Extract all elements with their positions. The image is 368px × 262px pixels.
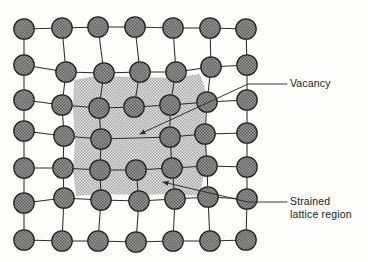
lattice-atom (165, 189, 185, 209)
lattice-atom (53, 158, 73, 178)
lattice-atom (237, 157, 257, 177)
lattice-atom (90, 160, 110, 180)
lattice-atom (166, 62, 186, 82)
lattice-atom (54, 188, 74, 208)
lattice-atom (197, 92, 217, 112)
lattice-atom (160, 127, 180, 147)
lattice-atom (52, 95, 72, 115)
lattice-atom (14, 193, 34, 213)
lattice-atom (88, 231, 108, 251)
lattice-atom (160, 95, 180, 115)
lattice-atom (198, 187, 218, 207)
lattice-atom (129, 191, 149, 211)
lattice-atom (88, 17, 108, 37)
lattice-atom (14, 90, 34, 110)
vacancy-label: Vacancy (290, 77, 331, 89)
lattice-atom (52, 18, 72, 38)
lattice-atom (130, 62, 150, 82)
lattice-atom (162, 158, 182, 178)
lattice-atom (14, 55, 34, 75)
lattice-atom (89, 98, 109, 118)
strained-region-label-line2: lattice region (290, 208, 352, 220)
lattice-atom (91, 190, 111, 210)
lattice-svg-canvas: Vacancy Strained lattice region (0, 0, 368, 262)
lattice-atom (200, 231, 220, 251)
lattice-atom (163, 18, 183, 38)
lattice-atom (126, 160, 146, 180)
lattice-atom (14, 230, 34, 250)
lattice-atom (163, 231, 183, 251)
lattice-atom (236, 19, 256, 39)
lattice-atom (126, 232, 146, 252)
lattice-atom (56, 62, 76, 82)
lattice-atom (54, 126, 74, 146)
lattice-atom (124, 97, 144, 117)
lattice-atom (237, 55, 257, 75)
strained-region-label-line1: Strained (290, 195, 330, 207)
lattice-atom (125, 17, 145, 37)
lattice-atom (14, 158, 34, 178)
lattice-atom (201, 57, 221, 77)
lattice-atom (14, 121, 34, 141)
lattice-atom (195, 124, 215, 144)
lattice-atom (14, 19, 34, 39)
lattice-atom (197, 156, 217, 176)
lattice-diagram-figure: Vacancy Strained lattice region (0, 0, 368, 262)
lattice-atom (237, 123, 257, 143)
lattice-atom (237, 189, 257, 209)
lattice-atom (91, 129, 111, 149)
lattice-atom (200, 18, 220, 38)
lattice-atom (52, 231, 72, 251)
lattice-atom (237, 90, 257, 110)
lattice-atom (94, 63, 114, 83)
lattice-atom (236, 230, 256, 250)
